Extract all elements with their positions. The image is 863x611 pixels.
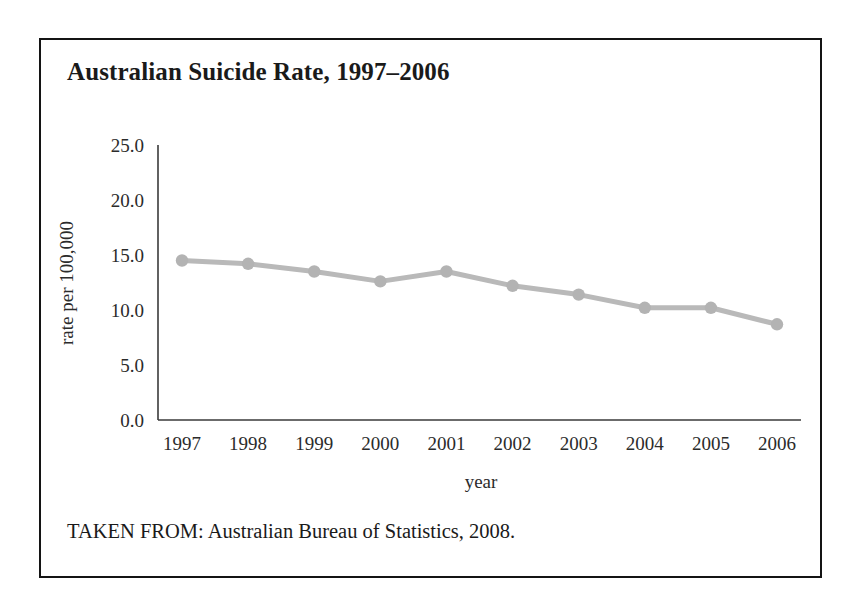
data-point-marker: [242, 258, 254, 270]
data-point-marker: [176, 254, 188, 266]
source-caption: TAKEN FROM: Australian Bureau of Statist…: [67, 520, 515, 543]
x-axis-tick-label: 2004: [626, 433, 665, 454]
y-axis-tick-label: 15.0: [111, 245, 144, 266]
data-series-line: [182, 261, 777, 325]
data-point-marker: [440, 265, 452, 277]
x-axis-tick-label: 2003: [560, 433, 598, 454]
x-axis-tick-label: 2006: [758, 433, 796, 454]
x-axis-tick-label: 1999: [295, 433, 333, 454]
y-axis-tick-label: 0.0: [120, 410, 144, 431]
y-axis-tick-labels: 25.020.015.010.05.00.0: [111, 135, 144, 431]
y-axis-tick-label: 5.0: [120, 355, 144, 376]
x-axis-tick-label: 2000: [361, 433, 399, 454]
y-axis-tick-label: 25.0: [111, 135, 144, 156]
data-point-marker: [308, 265, 320, 277]
data-point-marker: [639, 302, 651, 314]
data-point-marker: [705, 302, 717, 314]
x-axis-tick-label: 2001: [427, 433, 465, 454]
line-chart: 25.020.015.010.05.00.0 19971998199920002…: [41, 40, 824, 580]
data-point-marker: [771, 318, 783, 330]
data-point-marker: [374, 275, 386, 287]
data-point-marker: [506, 280, 518, 292]
x-axis-tick-labels: 1997199819992000200120022003200420052006: [163, 433, 796, 454]
x-axis-tick-label: 2002: [494, 433, 532, 454]
figure-border: Australian Suicide Rate, 1997–2006 25.02…: [39, 38, 822, 578]
x-axis-tick-label: 2005: [692, 433, 730, 454]
y-axis-tick-label: 10.0: [111, 300, 144, 321]
axis-lines: [158, 145, 801, 420]
data-point-marker: [572, 288, 584, 300]
y-axis-tick-label: 20.0: [111, 190, 144, 211]
x-axis-tick-label: 1997: [163, 433, 201, 454]
x-axis-title: year: [465, 471, 498, 492]
x-axis-tick-label: 1998: [229, 433, 267, 454]
y-axis-title: rate per 100,000: [56, 221, 77, 345]
chart-plot-area: 25.020.015.010.05.00.0 19971998199920002…: [41, 40, 824, 580]
